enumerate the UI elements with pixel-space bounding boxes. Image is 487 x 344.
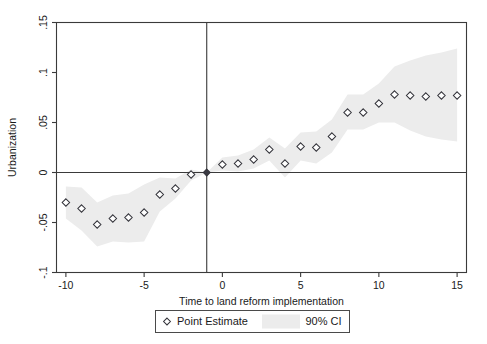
x-axis-title: Time to land reform implementation xyxy=(179,295,344,307)
event-study-chart: -10-5051015 -.1-.050.05.1.15 Time to lan… xyxy=(0,0,487,344)
legend-ci-swatch xyxy=(262,315,300,329)
x-tick-label: 15 xyxy=(451,279,463,291)
legend-ci-label: 90% CI xyxy=(305,315,341,327)
y-axis-title: Urbanization xyxy=(6,118,18,177)
y-tick-label: .05 xyxy=(37,115,49,130)
chart-legend: Point Estimate 90% CI xyxy=(156,311,350,333)
x-tick-label: 0 xyxy=(219,279,225,291)
chart-canvas: -10-5051015 -.1-.050.05.1.15 Time to lan… xyxy=(0,0,487,344)
y-tick-label: -.1 xyxy=(37,266,49,278)
x-tick-label: 5 xyxy=(298,279,304,291)
x-tick-label: -10 xyxy=(58,279,73,291)
x-tick-label: -5 xyxy=(139,279,148,291)
y-tick-label: .15 xyxy=(37,15,49,30)
legend-point-estimate-label: Point Estimate xyxy=(177,315,248,327)
y-tick-label: 0 xyxy=(37,169,49,175)
y-tick-label: -.05 xyxy=(37,213,49,231)
x-tick-label: 10 xyxy=(373,279,385,291)
y-tick-label: .1 xyxy=(37,68,49,77)
